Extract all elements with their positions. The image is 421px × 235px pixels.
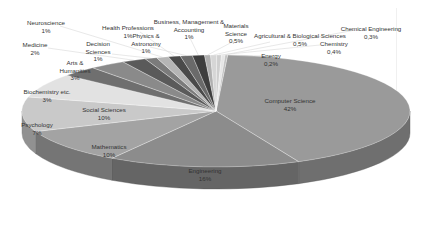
label-mathematics: Mathematics10%	[91, 143, 126, 158]
label-materials-science: MaterialsScience0,5%	[223, 22, 248, 45]
label-chemical-engineering: Chemical Engineering0,3%	[341, 25, 402, 40]
label-engineering: Engineering16%	[188, 167, 221, 182]
label-biochemistry: Biochemistry etc.3%	[23, 88, 70, 103]
label-social-sciences: Social Sciences10%	[82, 106, 126, 121]
label-neuroscience: Neuroscience1%	[27, 19, 65, 34]
label-computer-science: Computer Science42%	[265, 97, 316, 112]
label-medicine: Medicine2%	[23, 41, 48, 56]
label-chemistry: Chemistry0,4%	[320, 40, 348, 55]
label-energy: Energy0,2%	[261, 52, 281, 67]
label-psychology: Psychology7%	[21, 121, 53, 136]
label-decision-sciences: DecisionSciences1%	[85, 40, 110, 63]
label-business: Business, Management &Accounting1%	[154, 18, 225, 41]
